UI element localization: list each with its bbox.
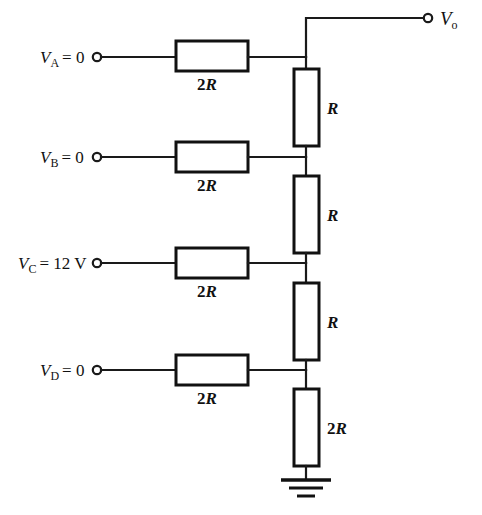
output-label: Vo xyxy=(440,8,458,32)
termination-resistor: 2R xyxy=(294,370,347,479)
input-label-B: VB= 0 xyxy=(40,148,84,170)
input-row-C: VC= 12 V 2R xyxy=(18,248,306,301)
schematic-canvas: Vo VA= 0 2R R VB= 0 2R R VC= 12 V xyxy=(0,0,482,515)
input-row-A: VA= 0 2R xyxy=(40,41,306,94)
ground-icon xyxy=(281,480,331,496)
series-resistor-D xyxy=(176,355,248,385)
input-label-A: VA= 0 xyxy=(40,48,84,70)
series-resistor-B xyxy=(176,142,248,172)
input-label-C: VC= 12 V xyxy=(18,254,87,276)
ladder-resistor-3-label: R xyxy=(326,313,338,332)
input-label-D: VD= 0 xyxy=(40,361,84,383)
ladder-resistor-2-label: R xyxy=(326,206,338,225)
output-branch: Vo xyxy=(306,8,458,57)
series-resistor-A-label: 2R xyxy=(197,75,217,94)
ladder-resistor-3-box xyxy=(294,283,319,360)
output-terminal-icon[interactable] xyxy=(424,14,432,22)
ladder-resistor-1: R xyxy=(294,57,338,157)
ladder-resistor-1-box xyxy=(294,69,319,146)
termination-resistor-label: 2R xyxy=(327,419,347,438)
series-resistor-C-label: 2R xyxy=(197,282,217,301)
ladder-resistor-2-box xyxy=(294,176,319,253)
circuit-diagram: Vo VA= 0 2R R VB= 0 2R R VC= 12 V xyxy=(0,0,482,515)
series-resistor-B-label: 2R xyxy=(197,176,217,195)
ladder-resistor-1-label: R xyxy=(326,99,338,118)
series-resistor-D-label: 2R xyxy=(197,389,217,408)
output-wire xyxy=(306,18,424,57)
series-resistor-C xyxy=(176,248,248,278)
ladder-resistor-3: R xyxy=(294,263,338,370)
termination-resistor-box xyxy=(294,389,319,466)
ladder-resistor-2: R xyxy=(294,157,338,263)
series-resistor-A xyxy=(176,41,248,71)
input-row-B: VB= 0 2R xyxy=(40,142,306,195)
input-row-D: VD= 0 2R xyxy=(40,355,306,408)
